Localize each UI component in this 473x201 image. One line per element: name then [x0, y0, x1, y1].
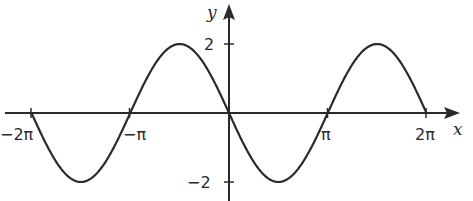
- y-axis-label: y: [206, 2, 217, 22]
- sine-graph: y x 2 −2 −2π −π π 2π: [0, 0, 473, 201]
- x-tick-label-2pi: 2π: [415, 125, 435, 144]
- x-axis-label: x: [453, 119, 463, 139]
- x-tick-label-negpi: −π: [123, 125, 146, 144]
- x-tick-label-neg2pi: −2π: [0, 125, 34, 144]
- y-tick-label-2: 2: [204, 35, 214, 54]
- x-tick-label-pi: π: [321, 125, 331, 144]
- y-tick-label-neg2: −2: [187, 173, 211, 192]
